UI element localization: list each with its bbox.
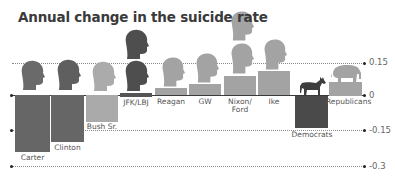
bar-reagan [155, 88, 187, 95]
bar-gw [189, 84, 221, 95]
head-silhouette-icon [228, 42, 255, 75]
chart-title: Annual change in the suicide rate [18, 9, 268, 25]
head-silhouette-icon [159, 56, 186, 88]
elephant-icon [331, 64, 365, 84]
chart-plot-area: 0.15 0 -0.15 -0.3 Carter Clinton Bush Sr… [0, 0, 395, 178]
bar-label-ike: Ike [258, 98, 290, 106]
head-silhouette-icon [193, 52, 220, 84]
bar-carter [15, 95, 50, 152]
bar-label-republicans: Republicans [326, 98, 366, 106]
bar-label-gw: GW [189, 98, 221, 106]
bar-jfk-lbj [120, 93, 152, 97]
head-silhouette-icon [122, 29, 150, 60]
bar-nixon-ford [224, 76, 256, 95]
bar-republicans [329, 82, 362, 96]
bar-label-bush-sr: Bush Sr. [86, 123, 118, 131]
bar-label-nixon-ford: Nixon/ Ford [224, 98, 256, 114]
bar-bush-sr [86, 95, 118, 122]
bar-democrats [295, 96, 328, 128]
head-silhouette-icon [122, 60, 150, 92]
y-tick-label: 0.15 [369, 57, 388, 67]
head-silhouette-icon [89, 61, 117, 92]
y-tick-label: -0.3 [369, 161, 386, 171]
head-silhouette-icon [261, 38, 288, 71]
tick-dot [10, 165, 13, 168]
tick-dot [363, 129, 366, 132]
bar-ike [258, 71, 290, 95]
bar-clinton [51, 95, 84, 142]
tick-dot [363, 165, 366, 168]
y-tick-label: -0.15 [369, 125, 391, 135]
bar-label-reagan: Reagan [155, 98, 187, 106]
head-silhouette-icon [54, 59, 82, 92]
bar-label-carter: Carter [15, 154, 50, 162]
bar-label-clinton: Clinton [51, 144, 84, 152]
tick-dot [10, 94, 13, 97]
tick-dot [10, 129, 13, 132]
bar-label-jfk-lbj: JFK/LBJ [120, 99, 152, 107]
head-silhouette-icon [18, 60, 46, 92]
bar-label-democrats: Democrats [290, 131, 334, 139]
gridline-neg-0.3 [12, 166, 364, 167]
donkey-icon [298, 77, 328, 97]
bar-label-nixon-line2: Ford [232, 105, 248, 114]
